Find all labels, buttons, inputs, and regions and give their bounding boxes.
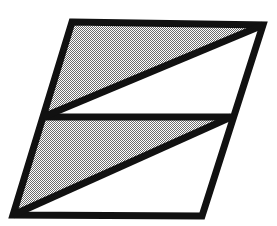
- parallelogram-figure: Shaded parallelogram divided into four t…: [0, 0, 277, 226]
